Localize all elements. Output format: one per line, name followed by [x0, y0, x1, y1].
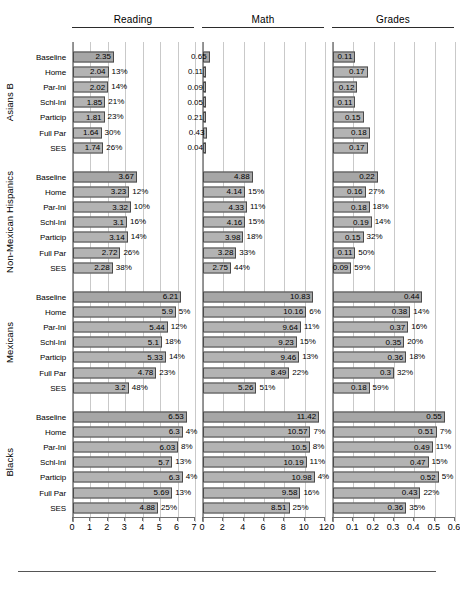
bar-value-label: 3.2 — [115, 384, 126, 392]
reduction-percent-label: 13% — [302, 353, 318, 361]
gridline — [325, 402, 326, 522]
figure-bottom-rule — [18, 571, 436, 572]
bar: 0.47 — [333, 457, 429, 468]
bar: 0.43 — [333, 487, 420, 498]
reduction-percent-label: 21% — [108, 98, 124, 106]
axis-tick-label: 2 — [104, 522, 109, 532]
bar: 0.18 — [333, 127, 370, 138]
axis-tick-label: 6 — [260, 522, 265, 532]
reduction-percent-label: 59% — [373, 384, 389, 392]
axis-tick-label: 2 — [220, 522, 225, 532]
column-header-label: Grades — [376, 14, 410, 25]
bar: 2.28 — [73, 262, 113, 273]
bar: 3.2 — [73, 382, 129, 393]
bar: 3.28 — [203, 247, 236, 258]
axis-tick-label: 0.1 — [346, 522, 359, 532]
bar-value-label: 0.15 — [345, 113, 361, 121]
bar-value-label: 9.23 — [278, 338, 294, 346]
plot-area: 0.650.110.090.050.210.430.04 — [202, 42, 324, 162]
bar: 4.88 — [73, 502, 158, 513]
bar-value-label: 6.53 — [168, 413, 184, 421]
bar: 0.09 — [333, 262, 351, 273]
column-header-rule — [202, 27, 324, 28]
bar-value-label: 8.49 — [271, 369, 287, 377]
reduction-percent-label: 51% — [259, 384, 275, 392]
bar-value-label: 4.88 — [139, 504, 155, 512]
axis-tick — [283, 517, 284, 521]
row-label: Full Par — [39, 488, 66, 497]
bar: 4.14 — [203, 186, 245, 197]
plot-area: 10.8310.166%9.6411%9.2315%9.4613%8.4922%… — [202, 282, 324, 402]
bar: 0.18 — [333, 382, 370, 393]
group-label: Asians B — [0, 42, 18, 162]
reduction-percent-label: 20% — [407, 338, 423, 346]
bar-value-label: 3.67 — [118, 173, 134, 181]
axis-tick-label: 0 — [199, 522, 204, 532]
reduction-percent-label: 13% — [112, 68, 128, 76]
axis-tick-label: 0.2 — [366, 522, 379, 532]
bar-value-label: 2.02 — [90, 83, 106, 91]
reduction-percent-label: 32% — [367, 233, 383, 241]
bar: 0.16 — [333, 186, 366, 197]
bar-value-label: 6.3 — [169, 428, 180, 436]
row-label: Baseline — [36, 52, 66, 61]
gridline — [195, 162, 196, 282]
plot-area: 2.352.0413%2.0214%1.8521%1.8123%1.6430%1… — [72, 42, 194, 162]
reduction-percent-label: 18% — [373, 203, 389, 211]
reduction-percent-label: 48% — [132, 384, 148, 392]
bar: 6.53 — [73, 411, 187, 422]
row-label-column: BaselineHomePar-IniSchl-IniParticipFull … — [18, 282, 68, 402]
bar-value-label: 0.17 — [349, 68, 365, 76]
bar-value-label: 0.37 — [390, 323, 406, 331]
row-label: Home — [45, 187, 66, 196]
group-label: Mexicans — [0, 282, 18, 402]
reduction-percent-label: 16% — [130, 218, 146, 226]
axis-tick — [159, 517, 160, 521]
bar: 0.11 — [333, 51, 355, 62]
bar-value-label: 2.75 — [212, 264, 228, 272]
bar-value-label: 9.58 — [282, 489, 298, 497]
axis-tick — [107, 517, 108, 521]
plot-area: 3.673.2312%3.3210%3.116%3.1414%2.7226%2.… — [72, 162, 194, 282]
gridline — [435, 42, 436, 162]
axis-tick-label: 0.3 — [387, 522, 400, 532]
bar: 10.98 — [203, 472, 315, 483]
reduction-percent-label: 11% — [310, 458, 325, 466]
gridline — [244, 42, 245, 162]
reduction-percent-label: 10% — [134, 203, 150, 211]
column-header-label: Reading — [114, 14, 153, 25]
bar: 0.15 — [333, 232, 364, 243]
bar: 9.64 — [203, 322, 301, 333]
row-label: Full Par — [39, 128, 66, 137]
reduction-percent-label: 50% — [358, 249, 374, 257]
bar-value-label: 1.74 — [85, 144, 101, 152]
bar-value-label: 0.11 — [337, 53, 352, 61]
bar-value-label: 0.11 — [337, 98, 352, 106]
bar-value-label: 5.26 — [238, 384, 254, 392]
bar-value-label: 5.9 — [162, 308, 173, 316]
bar: 2.02 — [73, 82, 108, 93]
bar: 0.15 — [333, 112, 364, 123]
bar: 4.78 — [73, 367, 156, 378]
reduction-percent-label: 33% — [239, 249, 255, 257]
bar-value-label: 0.16 — [347, 188, 363, 196]
row-label: SES — [50, 383, 66, 392]
bar-value-label: 0.11 — [337, 249, 352, 257]
bar-value-label: 0.55 — [426, 413, 442, 421]
bar: 5.44 — [73, 322, 168, 333]
bar-value-label: 0.17 — [349, 144, 365, 152]
bar: 8.51 — [203, 502, 290, 513]
row-label-column: BaselineHomePar-IniSchl-IniParticipFull … — [18, 402, 68, 522]
axis-tick — [177, 517, 178, 521]
group-label-text: Blacks — [4, 448, 15, 477]
axis-tick — [393, 517, 394, 521]
gridline — [414, 162, 415, 282]
axis-tick-label: 12 — [319, 522, 329, 532]
axis-tick — [202, 517, 203, 521]
reduction-percent-label: 16% — [411, 323, 427, 331]
group-non-mexican-hispanics: Non-Mexican HispanicsBaselineHomePar-Ini… — [0, 162, 448, 282]
reduction-percent-label: 18% — [165, 338, 181, 346]
gridline — [455, 42, 456, 162]
gridline — [178, 162, 179, 282]
bar: 5.33 — [73, 352, 166, 363]
